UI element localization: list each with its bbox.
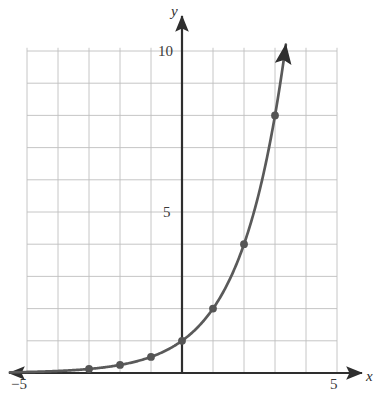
- x-axis-label: x: [366, 369, 373, 384]
- x-tick-label-5: 5: [330, 377, 338, 392]
- x-tick-label-neg5: −5: [11, 377, 27, 392]
- y-tick-label-10: 10: [158, 44, 173, 59]
- graph-figure: 10 5 −5 5 x y: [0, 0, 385, 419]
- y-tick-label-5: 5: [163, 205, 171, 220]
- plot-canvas: [0, 0, 385, 419]
- data-point: [240, 240, 248, 248]
- exponential-curve: [27, 45, 286, 372]
- axis-lines: [9, 16, 362, 373]
- data-point: [147, 353, 155, 361]
- data-point: [85, 365, 93, 373]
- data-point: [178, 337, 186, 345]
- data-point: [116, 361, 124, 369]
- data-point: [209, 305, 217, 313]
- data-point: [271, 112, 279, 120]
- y-axis-label: y: [171, 4, 178, 19]
